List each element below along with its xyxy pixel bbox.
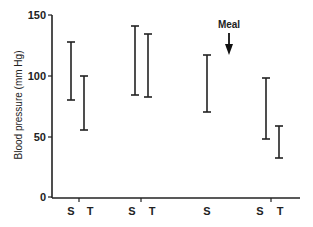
range-bars bbox=[67, 26, 283, 158]
range-bar-2 bbox=[80, 76, 88, 130]
blood-pressure-chart: 150 100 50 0 Blood pressure (mm Hg) S T … bbox=[0, 0, 313, 227]
range-bar-1 bbox=[67, 42, 75, 100]
x-label: S bbox=[128, 205, 135, 217]
x-label: S bbox=[67, 205, 74, 217]
x-label: S bbox=[203, 205, 210, 217]
meal-arrow-icon bbox=[225, 33, 233, 55]
x-label: T bbox=[149, 205, 156, 217]
range-bar-5 bbox=[203, 55, 211, 112]
y-tick-0: 0 bbox=[40, 191, 46, 203]
meal-label: Meal bbox=[218, 19, 240, 30]
x-label: T bbox=[87, 205, 94, 217]
y-tick-150: 150 bbox=[28, 9, 46, 21]
range-bar-4 bbox=[144, 34, 152, 97]
range-bar-7 bbox=[275, 126, 283, 158]
y-tick-100: 100 bbox=[28, 70, 46, 82]
x-label: T bbox=[277, 205, 284, 217]
y-axis-label: Blood pressure (mm Hg) bbox=[13, 51, 24, 160]
x-label: S bbox=[256, 205, 263, 217]
range-bar-3 bbox=[131, 26, 139, 95]
range-bar-6 bbox=[262, 78, 270, 139]
y-tick-50: 50 bbox=[34, 131, 46, 143]
